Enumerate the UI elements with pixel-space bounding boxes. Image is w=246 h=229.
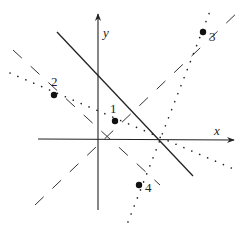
solid-line	[57, 32, 193, 176]
dotted-line-steep	[128, 6, 212, 222]
point-1-label: 1	[110, 101, 117, 116]
point-4	[136, 182, 142, 188]
point-2-label: 2	[51, 74, 58, 89]
x-axis	[38, 139, 234, 140]
point-2	[51, 92, 57, 98]
coordinate-diagram: y x 1 2 3 4	[0, 0, 246, 229]
point-4-label: 4	[145, 180, 152, 195]
y-axis-label: y	[101, 25, 109, 40]
point-3-label: 3	[209, 29, 216, 44]
point-1	[112, 118, 118, 124]
point-3	[200, 29, 206, 35]
x-axis-label: x	[213, 123, 220, 138]
